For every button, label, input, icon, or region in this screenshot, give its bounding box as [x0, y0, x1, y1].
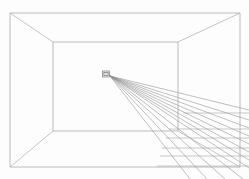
canvas-background	[0, 0, 249, 179]
vanishing-point-stem	[110, 75, 111, 76]
perspective-room-diagram	[0, 0, 249, 179]
drawing-canvas	[0, 0, 249, 179]
vanishing-point-object	[103, 71, 111, 77]
